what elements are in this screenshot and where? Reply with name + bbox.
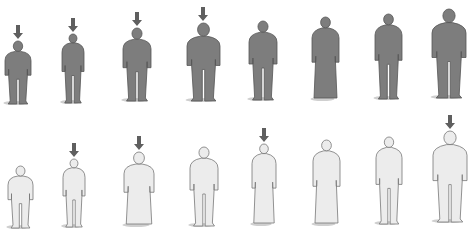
silhouette-top-row-dark-6	[312, 16, 339, 100]
person-silhouette-icon	[63, 158, 85, 227]
silhouette-bottom-row-light-3	[124, 151, 154, 226]
person-silhouette-icon	[313, 139, 340, 225]
person-silhouette-icon	[432, 8, 466, 98]
person-silhouette-icon	[375, 13, 402, 99]
silhouette-top-row-dark-5	[249, 20, 277, 100]
silhouette-top-row-dark-4	[187, 22, 220, 101]
silhouette-top-row-dark-2	[62, 33, 84, 103]
person-silhouette-icon	[252, 143, 276, 225]
person-silhouette-icon	[8, 165, 33, 228]
silhouette-bottom-row-light-4	[190, 146, 218, 226]
silhouette-bottom-row-light-1	[8, 165, 33, 228]
down-arrow-icon	[445, 114, 455, 133]
silhouette-top-row-dark-1	[5, 40, 31, 104]
person-silhouette-icon	[312, 16, 339, 100]
person-silhouette-icon	[433, 130, 467, 222]
down-arrow-icon	[259, 127, 269, 146]
silhouette-bottom-row-light-6	[313, 139, 340, 225]
person-silhouette-icon	[187, 22, 220, 101]
silhouette-bottom-row-light-2	[63, 158, 85, 227]
person-silhouette-icon	[62, 33, 84, 103]
down-arrow-icon	[69, 142, 79, 161]
down-arrow-icon	[134, 135, 144, 154]
silhouette-bottom-row-light-7	[376, 136, 402, 224]
person-silhouette-icon	[376, 136, 402, 224]
silhouette-top-row-dark-7	[375, 13, 402, 99]
silhouette-top-row-dark-3	[123, 27, 151, 101]
person-silhouette-icon	[124, 151, 154, 226]
person-silhouette-icon	[190, 146, 218, 226]
person-silhouette-icon	[5, 40, 31, 104]
down-arrow-icon	[13, 24, 23, 43]
person-silhouette-icon	[123, 27, 151, 101]
down-arrow-icon	[68, 17, 78, 36]
silhouette-bottom-row-light-5	[252, 143, 276, 225]
down-arrow-icon	[132, 11, 142, 30]
silhouette-top-row-dark-8	[432, 8, 466, 98]
person-silhouette-icon	[249, 20, 277, 100]
down-arrow-icon	[198, 6, 208, 25]
silhouette-bottom-row-light-8	[433, 130, 467, 222]
